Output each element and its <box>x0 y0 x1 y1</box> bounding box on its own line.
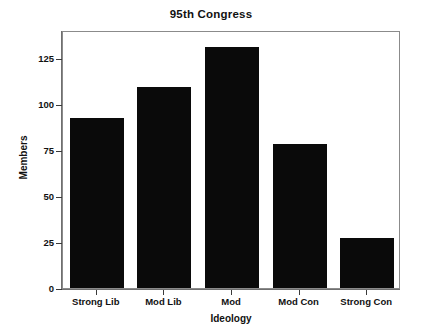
y-axis-tick-label: 0 <box>8 284 54 294</box>
y-axis-tick-mark <box>56 59 62 60</box>
y-axis-tick-mark <box>56 243 62 244</box>
y-axis-tick-label: 25 <box>8 238 54 248</box>
y-axis-line <box>61 31 62 290</box>
chart-title: 95th Congress <box>0 8 422 20</box>
x-axis-tick-mark <box>366 290 367 295</box>
x-axis-tick-mark <box>299 290 300 295</box>
y-axis-tick-label: 50 <box>8 192 54 202</box>
y-axis-tick-label: 125 <box>8 54 54 64</box>
bar-mod <box>205 47 259 288</box>
bar-chart: 95th Congress Members Ideology 025507510… <box>0 0 422 335</box>
x-axis-title: Ideology <box>62 313 400 324</box>
y-axis-tick-mark <box>56 197 62 198</box>
y-axis-tick-mark <box>56 105 62 106</box>
x-axis-tick-label: Strong Con <box>332 297 400 307</box>
x-axis-tick-label: Mod Con <box>265 297 333 307</box>
x-axis-tick-mark <box>163 290 164 295</box>
y-axis-tick-label: 75 <box>8 146 54 156</box>
y-axis-tick-label: 100 <box>8 100 54 110</box>
x-axis-tick-label: Mod <box>197 297 265 307</box>
y-axis-tick-mark <box>56 151 62 152</box>
x-axis-tick-mark <box>96 290 97 295</box>
bar-mod-lib <box>137 87 191 288</box>
bar-strong-con <box>340 238 394 288</box>
x-axis-tick-label: Mod Lib <box>130 297 198 307</box>
y-axis-tick-mark <box>56 289 62 290</box>
y-axis-title: Members <box>18 118 29 198</box>
x-axis-tick-mark <box>231 290 232 295</box>
bar-mod-con <box>273 144 327 288</box>
x-axis-tick-label: Strong Lib <box>62 297 130 307</box>
bar-strong-lib <box>70 118 124 288</box>
plot-area <box>62 31 400 289</box>
plot-inner-surface <box>63 32 399 288</box>
